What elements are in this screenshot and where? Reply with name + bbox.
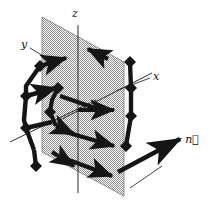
axis-label-z: z [71,7,78,20]
joint-diamond [30,160,42,172]
axis-leader-n [130,166,162,188]
joint-diamond [20,90,32,102]
joint-diamond [125,110,137,122]
right-chain-path [126,62,131,146]
axis-label-x: x [153,70,160,83]
normal-vector-label: n⃗ [185,133,199,146]
figure-canvas: z y x n⃗ [0,0,210,213]
diagram-svg: z y x n⃗ [0,0,210,213]
axis-label-y: y [20,38,28,51]
joint-diamond [124,56,136,68]
left-chain-path [24,66,40,150]
